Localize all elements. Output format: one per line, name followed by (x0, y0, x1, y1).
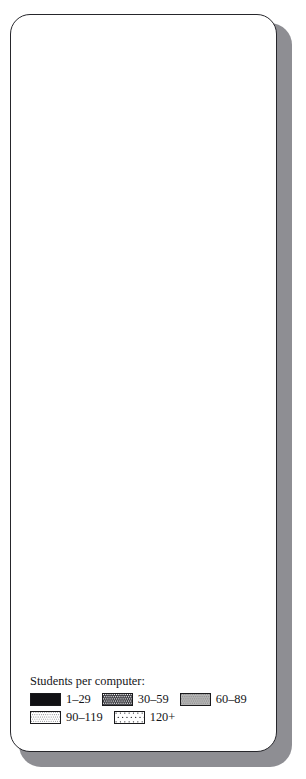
legend-item-120plus: 120+ (114, 710, 176, 725)
legend-swatch-60-89 (180, 693, 211, 706)
legend-label-60-89: 60–89 (216, 692, 247, 707)
legend-item-1-29: 1–29 (30, 692, 91, 707)
legend-title: Students per computer: (30, 674, 270, 689)
legend-label-1-29: 1–29 (66, 692, 91, 707)
legend-label-30-59: 30–59 (138, 692, 169, 707)
legend-swatch-120plus (114, 711, 145, 724)
legend-row-2: 90–119 120+ (30, 710, 270, 725)
legend-swatch-30-59 (102, 693, 133, 706)
figure-card (10, 14, 277, 752)
legend-label-120plus: 120+ (150, 710, 176, 725)
legend-swatch-1-29 (30, 693, 61, 706)
legend-row-1: 1–29 30–59 60–89 (30, 692, 270, 707)
legend-item-90-119: 90–119 (30, 710, 103, 725)
legend: Students per computer: 1–29 30–59 60–89 … (30, 674, 270, 728)
legend-swatch-90-119 (30, 711, 61, 724)
legend-label-90-119: 90–119 (66, 710, 103, 725)
legend-item-30-59: 30–59 (102, 692, 169, 707)
legend-item-60-89: 60–89 (180, 692, 247, 707)
